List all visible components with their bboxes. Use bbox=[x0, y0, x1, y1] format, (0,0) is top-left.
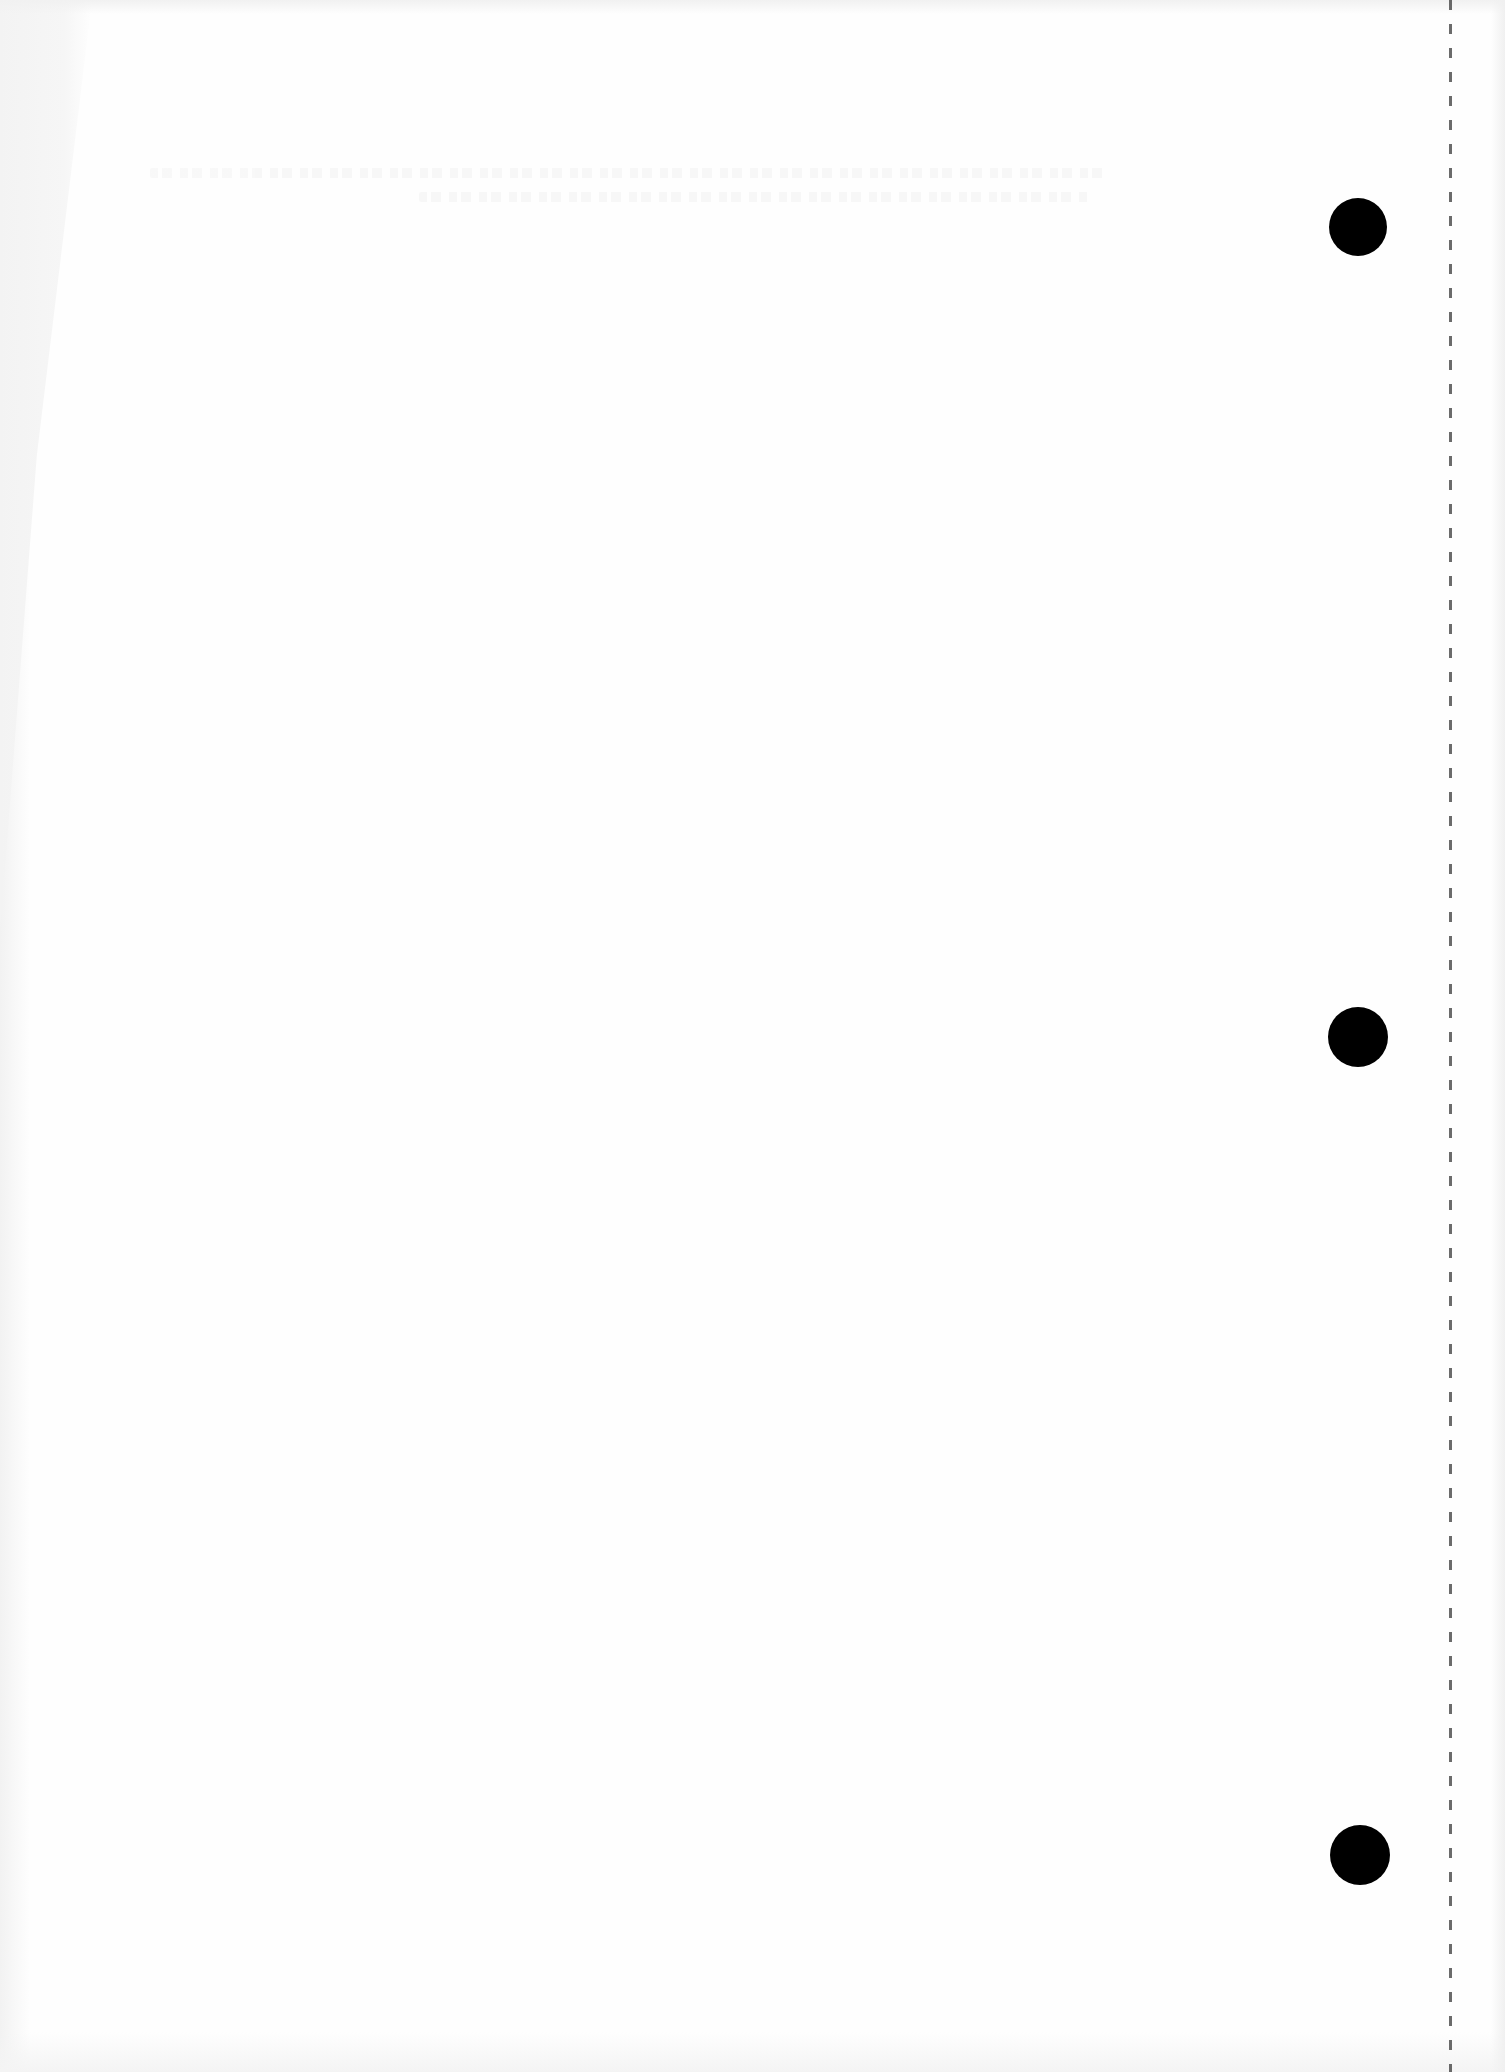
bleed-line bbox=[150, 168, 1110, 178]
perforation-line bbox=[1449, 0, 1452, 2072]
top-edge-shadow bbox=[0, 0, 1505, 14]
scanned-page bbox=[0, 0, 1505, 2072]
punch-hole-top bbox=[1329, 198, 1387, 256]
punch-hole-middle bbox=[1328, 1007, 1388, 1067]
punch-hole-bottom bbox=[1330, 1825, 1390, 1885]
bleed-line bbox=[419, 192, 1091, 202]
bleed-through-text bbox=[150, 168, 1110, 248]
bottom-edge-shadow bbox=[0, 2032, 1505, 2072]
right-edge-shadow bbox=[1491, 0, 1505, 2072]
